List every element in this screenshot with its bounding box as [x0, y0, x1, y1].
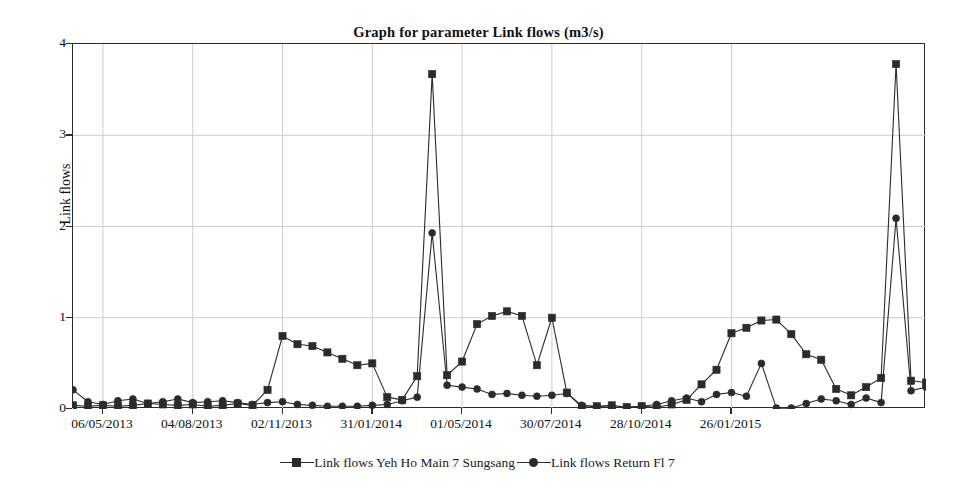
data-point-circle — [204, 398, 211, 405]
data-point-circle — [144, 400, 151, 407]
x-tick-mark-6 — [641, 408, 642, 414]
data-point-circle — [324, 403, 331, 409]
x-tick-mark-3 — [371, 408, 372, 414]
data-point-square — [907, 377, 914, 384]
data-point-square — [279, 332, 286, 339]
data-point-circle — [84, 398, 91, 405]
data-point-square — [773, 316, 780, 323]
data-point-circle — [773, 405, 780, 409]
data-point-circle — [788, 405, 795, 409]
legend-label-1: Link flows Yeh Ho Main 7 Sungsang — [314, 455, 517, 471]
data-point-square — [533, 362, 540, 369]
data-point-circle — [264, 399, 271, 406]
data-point-circle — [189, 399, 196, 406]
data-point-square — [833, 385, 840, 392]
plot-area — [72, 43, 925, 408]
data-point-circle — [653, 401, 660, 408]
data-point-circle — [249, 401, 256, 408]
x-tick-mark-2 — [282, 408, 283, 414]
data-point-circle — [668, 397, 675, 404]
data-point-square — [339, 355, 346, 362]
data-point-circle — [354, 403, 361, 409]
data-point-circle — [698, 398, 705, 405]
data-point-square — [264, 386, 271, 393]
x-tick-mark-7 — [730, 408, 731, 414]
data-point-circle — [459, 384, 466, 391]
series-line-1 — [73, 64, 926, 407]
legend-marker-circle-icon — [529, 458, 538, 467]
y-tick-label-2: 2 — [40, 219, 66, 233]
data-point-circle — [219, 397, 226, 404]
data-point-square — [713, 366, 720, 373]
data-point-square — [473, 321, 480, 328]
data-point-square — [728, 330, 735, 337]
data-point-square — [354, 362, 361, 369]
x-tick-mark-0 — [102, 408, 103, 414]
data-point-circle — [548, 392, 555, 399]
data-point-circle — [848, 401, 855, 408]
x-tick-label-7: 26/01/2015 — [670, 416, 790, 432]
data-point-circle — [908, 387, 915, 394]
data-point-square — [309, 342, 316, 349]
chart-legend: Link flows Yeh Ho Main 7 SungsangLink fl… — [0, 455, 957, 471]
data-point-circle — [129, 395, 136, 402]
data-point-square — [803, 351, 810, 358]
x-tick-mark-1 — [192, 408, 193, 414]
data-point-circle — [339, 403, 346, 409]
data-point-square — [892, 60, 899, 67]
data-point-square — [818, 356, 825, 363]
data-point-square — [324, 349, 331, 356]
data-point-square — [863, 384, 870, 391]
y-tick-label-1: 1 — [40, 310, 66, 324]
data-point-circle — [444, 382, 451, 389]
data-point-circle — [608, 404, 615, 409]
data-point-square — [488, 312, 495, 319]
x-tick-mark-4 — [461, 408, 462, 414]
data-point-circle — [818, 395, 825, 402]
data-point-square — [458, 358, 465, 365]
data-point-square — [429, 71, 436, 78]
data-point-circle — [503, 390, 510, 397]
data-point-circle — [384, 401, 391, 408]
data-point-circle — [713, 391, 720, 398]
legend-label-2: Link flows Return Fl 7 — [551, 455, 677, 471]
data-point-square — [369, 360, 376, 367]
data-point-square — [73, 402, 77, 409]
legend-entry-2[interactable]: Link flows Return Fl 7 — [517, 455, 677, 471]
y-tick-mark-0 — [66, 408, 72, 409]
data-point-square — [444, 372, 451, 379]
data-point-square — [518, 312, 525, 319]
y-tick-label-0: 0 — [40, 401, 66, 415]
data-point-circle — [518, 392, 525, 399]
data-point-square — [294, 341, 301, 348]
data-point-circle — [563, 390, 570, 397]
data-point-square — [758, 317, 765, 324]
data-point-square — [848, 392, 855, 399]
data-point-square — [788, 331, 795, 338]
data-point-circle — [623, 404, 630, 409]
data-point-circle — [578, 402, 585, 409]
data-point-circle — [863, 395, 870, 402]
y-axis-tick-labels: 01234 — [36, 43, 66, 408]
data-point-circle — [279, 398, 286, 405]
data-point-circle — [893, 215, 900, 222]
data-point-circle — [114, 397, 121, 404]
chart-root: Graph for parameter Link flows (m3/s) Li… — [0, 0, 957, 488]
data-point-circle — [878, 399, 885, 406]
data-point-circle — [758, 360, 765, 367]
y-tick-label-3: 3 — [40, 127, 66, 141]
data-point-square — [698, 381, 705, 388]
data-point-circle — [399, 397, 406, 404]
data-point-circle — [533, 393, 540, 400]
data-point-circle — [414, 394, 421, 401]
legend-swatch-2 — [517, 457, 551, 469]
data-point-circle — [489, 391, 496, 398]
data-point-square — [129, 402, 136, 409]
chart-title: Graph for parameter Link flows (m3/s) — [0, 24, 957, 41]
data-point-circle — [294, 401, 301, 408]
legend-entry-1[interactable]: Link flows Yeh Ho Main 7 Sungsang — [280, 455, 517, 471]
legend-swatch-1 — [280, 457, 314, 469]
x-tick-mark-5 — [551, 408, 552, 414]
data-point-circle — [743, 393, 750, 400]
data-point-circle — [474, 385, 481, 392]
